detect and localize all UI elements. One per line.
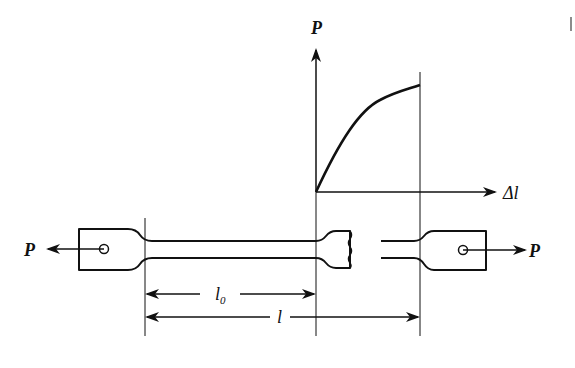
final-length-label: l bbox=[277, 307, 282, 327]
y-axis-label: P bbox=[310, 18, 323, 38]
load-elongation-graph: P Δl bbox=[310, 18, 519, 203]
right-load-label: P bbox=[528, 241, 541, 261]
left-load-label: P bbox=[23, 240, 36, 260]
gauge-length-label: l0 bbox=[215, 284, 226, 306]
gauge-length-dimension: l0 bbox=[147, 284, 314, 306]
final-length-dimension: l bbox=[147, 307, 418, 327]
x-axis-label: Δl bbox=[502, 183, 519, 203]
specimen-left-half bbox=[79, 229, 352, 270]
tensile-test-diagram: P Δl P P l0 l bbox=[0, 0, 575, 368]
load-curve bbox=[316, 85, 420, 192]
